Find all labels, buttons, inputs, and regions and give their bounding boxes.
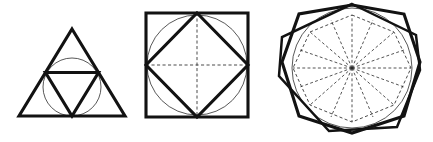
spoke-10 <box>310 68 352 105</box>
spoke-1 <box>352 20 373 68</box>
figure-row <box>0 0 433 142</box>
spoke-7 <box>352 68 373 117</box>
spoke-9 <box>331 68 352 117</box>
spoke-6 <box>352 68 394 105</box>
spoke-13 <box>300 50 352 68</box>
spoke-15 <box>331 20 352 68</box>
spoke-11 <box>300 68 352 87</box>
spoke-2 <box>352 32 394 68</box>
spoke-3 <box>352 50 404 68</box>
incircle <box>43 58 101 116</box>
figure-square <box>138 0 258 142</box>
radial-spokes <box>293 15 411 122</box>
figure-octagon <box>273 0 433 142</box>
figure-triangle <box>0 0 140 142</box>
spoke-5 <box>352 68 404 87</box>
spoke-14 <box>310 32 352 68</box>
